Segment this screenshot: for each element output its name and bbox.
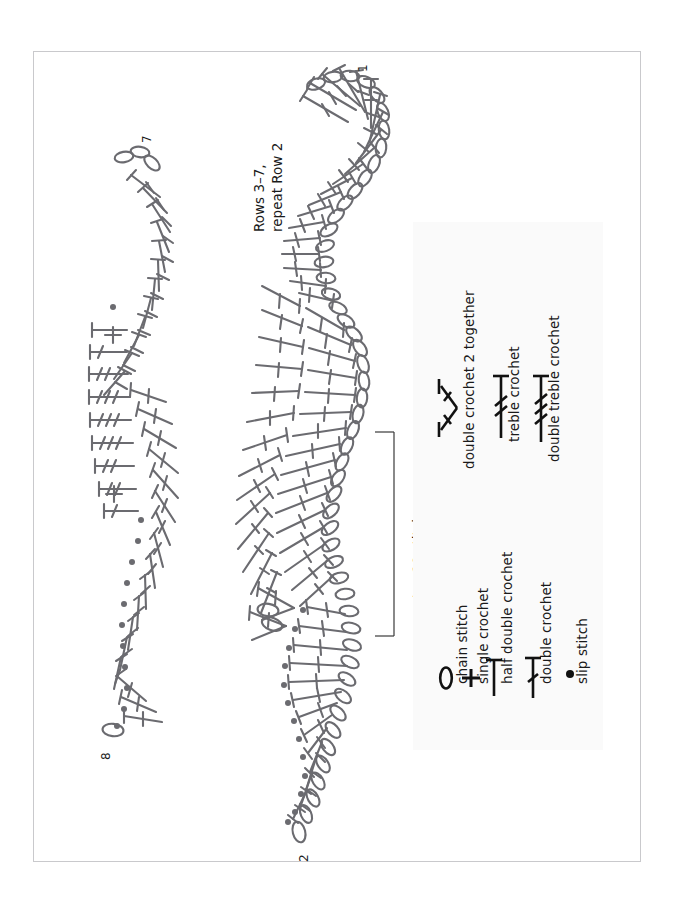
treble-crochet-icon bbox=[490, 370, 512, 444]
row-label-7: 7 bbox=[140, 135, 154, 143]
legend-panel: chain stitch single crochet half double … bbox=[413, 222, 603, 750]
rows-note-line1: Rows 3–7, bbox=[251, 164, 267, 232]
double-crochet-2-together-icon bbox=[437, 374, 463, 444]
left-chart-stitch-column bbox=[104, 170, 178, 726]
repeat-bracket bbox=[375, 432, 394, 636]
crochet-chart-page: Rows 3–7, repeat Row 2 repeat = 10 stitc… bbox=[0, 0, 673, 906]
left-chart-group bbox=[89, 146, 178, 738]
slip-stitch-icon bbox=[562, 666, 578, 682]
mid-band-left-tail bbox=[257, 602, 284, 633]
rows-note-line2: repeat Row 2 bbox=[269, 143, 285, 232]
left-chart-chain-arc bbox=[114, 146, 163, 174]
row2-stitch-fan bbox=[288, 600, 347, 823]
single-crochet-icon bbox=[459, 664, 483, 692]
half-double-crochet-icon bbox=[483, 654, 505, 702]
row1-stitch-fan bbox=[282, 65, 389, 308]
rows-note-caption: Rows 3–7, repeat Row 2 bbox=[250, 143, 286, 232]
double-treble-crochet-icon bbox=[530, 370, 552, 448]
mid-band-stitch-fans bbox=[236, 286, 357, 613]
legend-label-dc2tog: double crochet 2 together bbox=[461, 290, 477, 469]
double-crochet-icon bbox=[522, 652, 544, 704]
row2-chain-arc bbox=[290, 324, 371, 844]
chain-stitch-icon bbox=[435, 662, 457, 694]
row-label-1: 1 bbox=[356, 64, 370, 72]
left-chart-end-chain bbox=[102, 723, 124, 738]
row-label-2: 2 bbox=[297, 854, 311, 862]
row-label-8: 8 bbox=[99, 752, 113, 760]
